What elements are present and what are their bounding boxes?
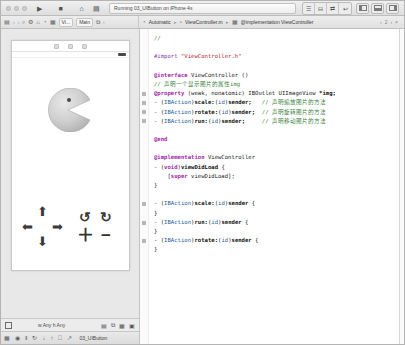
code-token: } (154, 210, 157, 216)
toggle-navigator-button[interactable] (356, 3, 369, 14)
editor-gutter[interactable] (140, 29, 149, 344)
gutter-action-marker[interactable] (142, 101, 146, 105)
code-line (154, 144, 395, 153)
code-token: { (218, 164, 225, 170)
grid-icon[interactable]: ▦ (50, 19, 56, 25)
symbol-icon: ▦ (232, 19, 238, 25)
run-button[interactable]: ▶ (33, 3, 46, 14)
undo-redo-button[interactable]: ↩ (339, 3, 351, 14)
home-icon[interactable]: ⌂ (36, 19, 40, 25)
counterpart-count: 2 (385, 19, 388, 25)
zoom-in-button[interactable]: ＋ (77, 227, 94, 244)
zoom-icon[interactable] (22, 6, 27, 11)
code-token: super (171, 173, 188, 179)
code-line (154, 126, 395, 135)
code-token: - ( (154, 237, 164, 243)
device-control-1-icon[interactable] (54, 44, 59, 49)
version-editor-button[interactable]: ⇄ (327, 3, 339, 14)
gutter-action-marker[interactable] (142, 202, 146, 206)
stop-button[interactable]: ■ (54, 3, 67, 14)
zoom-out-button[interactable]: − (98, 227, 115, 244)
pause-icon[interactable]: ‖ (25, 335, 27, 341)
breadcrumb-symbol[interactable]: @implementation ViewController (241, 19, 314, 25)
move-left-button[interactable]: ⬅ (20, 219, 35, 234)
rotate-ccw-button[interactable]: ↺ (77, 208, 94, 225)
breadcrumb-scheme[interactable]: Automatic (149, 19, 171, 25)
standard-editor-button[interactable]: ☰ (303, 3, 315, 14)
scheme-home-icon[interactable]: ⌂ (75, 3, 88, 14)
assistant-editor-button[interactable]: ⊟ (315, 3, 327, 14)
code-line: - (IBAction)scale:(id)sender { (154, 199, 395, 208)
code-line: // 声明一个显示图片的属性img (154, 80, 395, 89)
code-token: scale: (194, 200, 214, 206)
scheme-icon[interactable]: ◔ (142, 19, 146, 25)
gutter-action-marker[interactable] (142, 239, 146, 243)
search-icon[interactable]: ⌕ (22, 19, 25, 25)
editor-jump-bar: ◔ Automatic ▸ ▫ ViewController.m ▸ ▦ @im… (139, 16, 404, 28)
code-token: "ViewController.h" (181, 53, 242, 59)
code-token: IBAction (164, 219, 191, 225)
ib-layout-tools: ▤ ⧉ ▦ ▣ (101, 322, 135, 329)
resizing-icon[interactable]: ▣ (129, 322, 135, 329)
move-down-button[interactable]: ⬇ (35, 234, 50, 249)
code-line: - (IBAction)run:(id)sender; // 声明移动图片的方法 (154, 117, 395, 126)
code-token: IBAction (164, 109, 191, 115)
close-icon[interactable] (6, 6, 11, 11)
gutter-action-marker[interactable] (142, 119, 146, 123)
forward-button[interactable]: › (18, 19, 20, 25)
step-into-icon[interactable]: ↓ (42, 335, 45, 341)
code-token: void (164, 164, 177, 170)
move-up-button[interactable]: ⬆ (35, 204, 50, 219)
size-class-label[interactable]: w Any h Any (38, 322, 65, 328)
align-icon[interactable]: ▤ (101, 322, 107, 329)
back-button[interactable]: ‹ (13, 19, 15, 25)
resolve-issues-icon[interactable]: ▦ (119, 322, 125, 329)
device-control-2-icon[interactable] (68, 44, 73, 49)
gutter-action-marker[interactable] (142, 92, 146, 96)
iphone-device-preview[interactable]: ⬆ ⬅ ➡ ⬇ ↺ ↻ ＋ − (11, 40, 130, 271)
gutter-action-marker[interactable] (142, 221, 146, 225)
layers-icon[interactable]: ⧉ (96, 19, 100, 25)
code-line: - (IBAction)rotate:(id)sender { (154, 236, 395, 245)
status-text: Running 03_UIButton on iPhone 4s (114, 5, 192, 11)
document-outline-icon[interactable] (5, 322, 12, 329)
toggle-debug-area-button[interactable] (371, 3, 384, 14)
pin-icon[interactable]: ⧉ (111, 322, 115, 329)
device-control-3-icon[interactable] (82, 44, 87, 49)
image-view-pacman[interactable] (46, 88, 90, 132)
ib-canvas[interactable]: ⬆ ⬅ ➡ ⬇ ↺ ↻ ＋ − (1, 29, 139, 318)
gutter-action-marker[interactable] (142, 110, 146, 114)
main-storyboard-chip[interactable]: Main (76, 18, 93, 27)
code-token: sender; (221, 118, 245, 124)
simulate-location-icon[interactable]: ⎕ (58, 335, 62, 341)
rotate-cw-button[interactable]: ↻ (98, 208, 115, 225)
view-hierarchy-icon[interactable]: ↗ (67, 335, 72, 341)
next-counterpart-button[interactable]: › (390, 19, 392, 25)
step-over-icon[interactable]: ↻ (32, 335, 37, 341)
code-line: - (IBAction)run:(id)sender { (154, 218, 395, 227)
code-token: @interface (154, 72, 188, 78)
code-token: sender (232, 237, 252, 243)
jump-bar-chevron[interactable]: ‹ (103, 19, 105, 25)
minimize-icon[interactable] (14, 6, 19, 11)
step-out-icon[interactable]: ↑ (50, 335, 53, 341)
breadcrumb-file[interactable]: ViewController.m (185, 19, 223, 25)
code-token: // 声明一个显示图片的属性img (154, 81, 240, 87)
folder-icon[interactable]: ▤ (4, 19, 10, 25)
code-token: - ( (154, 219, 164, 225)
gear-icon[interactable]: ⚙ (28, 19, 33, 25)
record-icon[interactable]: ◉ (15, 335, 20, 341)
code-editor-pane: // #import "ViewController.h" @interface… (140, 29, 404, 344)
close-editor-button[interactable]: × (395, 19, 398, 25)
scheme-device-icon[interactable]: ▤ (90, 3, 103, 14)
toggle-utilities-button[interactable] (386, 3, 399, 14)
device-toolbar (12, 41, 129, 52)
code-token: // 声明旋转图片的方法 (255, 109, 326, 115)
prev-counterpart-button[interactable]: ‹ (380, 19, 382, 25)
view-chip[interactable]: Vi... (59, 18, 74, 27)
breadcrumb-separator-1: ▸ (174, 19, 177, 25)
source-code-area[interactable]: // #import "ViewController.h" @interface… (149, 29, 399, 344)
toggle-debug-icon[interactable]: ▦ (4, 335, 10, 341)
clock-icon[interactable]: ◔ (43, 19, 47, 25)
move-right-button[interactable]: ➡ (50, 219, 65, 234)
